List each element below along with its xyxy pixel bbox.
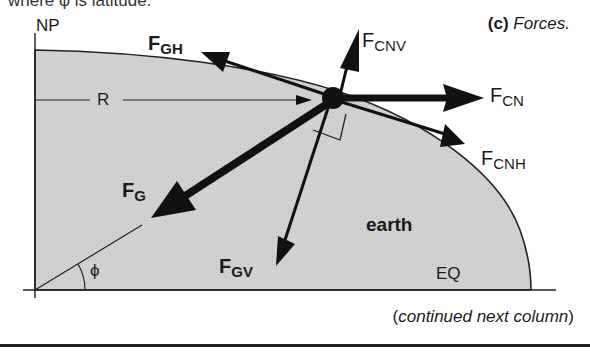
earth-label: earth [366, 215, 412, 234]
fcn-label-sub: CN [502, 92, 524, 109]
mass-point [322, 87, 344, 109]
fcn-label-main: F [490, 84, 502, 106]
fcnv-label: FCNV [362, 30, 406, 53]
continued-note: (continued next column) [393, 307, 574, 327]
fcnv-label-sub: CNV [374, 37, 406, 54]
fcnv-arrowhead-icon [340, 29, 359, 72]
fcnh-arrowhead-icon [440, 124, 465, 147]
forces-diagram [0, 0, 590, 351]
north-pole-label: NP [36, 17, 60, 34]
fgh-label-main: F [148, 32, 160, 54]
fcn-label: FCN [490, 85, 524, 108]
continued-note-close: ) [568, 307, 574, 326]
phi-label: ϕ [90, 262, 100, 279]
fg-label-sub: G [134, 187, 146, 204]
fcnh-label-sub: CNH [493, 155, 526, 172]
footer-divider [0, 344, 590, 347]
fgh-label: FGH [148, 33, 183, 56]
fcnh-label-main: F [481, 147, 493, 169]
fgv-label: FGV [219, 256, 253, 279]
radius-label: R [97, 91, 109, 108]
caption-title: Forces. [513, 14, 570, 33]
fg-label: FG [122, 180, 146, 203]
fgh-label-sub: GH [160, 40, 183, 57]
fcnv-label-main: F [362, 29, 374, 51]
fgv-label-main: F [219, 255, 231, 277]
caption-part: (c) [488, 14, 509, 33]
fg-label-main: F [122, 179, 134, 201]
fcnh-label: FCNH [481, 148, 526, 171]
fgv-label-sub: GV [231, 263, 253, 280]
continued-note-text: continued next column [398, 307, 568, 326]
figure-caption: (c) Forces. [488, 14, 570, 34]
equator-label: EQ [436, 265, 461, 282]
fcn-arrowhead-icon [443, 84, 484, 112]
